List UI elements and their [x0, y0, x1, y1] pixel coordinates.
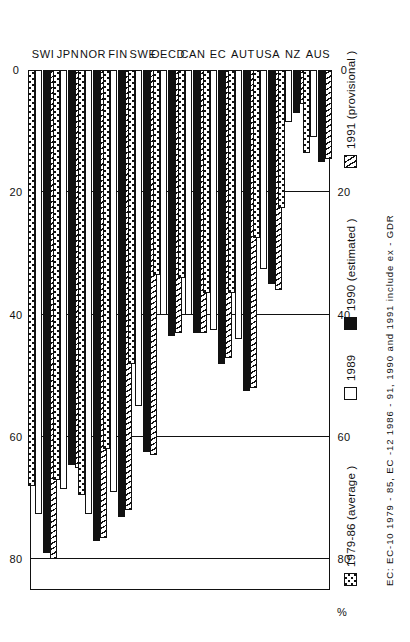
bar-swe-dotted — [128, 70, 135, 364]
chart-page: % 020406080 020406080 SWIJPNNORFINSWEOEC… — [0, 0, 410, 642]
category-label-nor: NOR — [79, 48, 105, 60]
legend-item-1[interactable]: 1989 — [344, 355, 357, 400]
legend-label-1: 1989 — [345, 355, 357, 381]
bar-aus-black — [318, 70, 325, 162]
legend-footnote: EC: EC-10 1979 - 85, EC -12 1986 - 91, 1… — [384, 214, 395, 586]
rotated-chart-canvas: % 020406080 020406080 SWIJPNNORFINSWEOEC… — [0, 0, 410, 642]
tick-label-top-20: 20 — [9, 186, 22, 198]
bar-swi-dotted — [28, 70, 35, 486]
bar-jpn-white — [60, 70, 67, 489]
bar-fin-black — [118, 70, 125, 517]
gridline-80 — [30, 558, 330, 559]
category-label-ec: EC — [209, 48, 225, 60]
tick-label-top-40: 40 — [9, 309, 22, 321]
bar-fin-dotted — [103, 70, 110, 449]
category-label-nz: NZ — [285, 48, 301, 60]
chart-legend: 1979-86 (average )19891990 (estimated )1… — [344, 66, 400, 586]
bar-can-dotted — [178, 70, 185, 278]
bar-aut-black — [243, 70, 250, 391]
legend-label-0: 1979-86 (average ) — [345, 466, 357, 567]
legend-label-2: 1990 (estimated ) — [345, 218, 357, 311]
bar-can-white — [185, 70, 192, 315]
category-label-fin: FIN — [108, 48, 128, 60]
legend-swatch-white — [344, 387, 357, 400]
category-label-aut: AUT — [231, 48, 255, 60]
bar-jpn-dotted — [53, 70, 60, 480]
bar-nor-white — [85, 70, 92, 514]
bar-aut-dotted — [228, 70, 235, 293]
bar-swi-white — [35, 70, 42, 514]
bar-swi-black — [43, 70, 50, 553]
bar-usa-black — [268, 70, 275, 284]
legend-item-0[interactable]: 1979-86 (average ) — [344, 466, 357, 586]
tick-label-top-0: 0 — [13, 64, 20, 76]
bar-swe-black — [143, 70, 150, 452]
bar-nz-dotted — [278, 70, 285, 208]
bar-nz-white — [285, 70, 292, 122]
bar-nor-dotted — [78, 70, 85, 495]
bar-usa-dotted — [253, 70, 260, 238]
bar-usa-white — [260, 70, 267, 269]
plot-area — [30, 70, 330, 590]
bar-nz-black — [293, 70, 300, 113]
bar-ec-black — [218, 70, 225, 364]
category-label-aus: AUS — [305, 48, 329, 60]
tick-label-top-60: 60 — [9, 431, 22, 443]
bar-can-black — [193, 70, 200, 333]
tick-label-top-80: 80 — [9, 553, 22, 565]
legend-swatch-black — [344, 317, 357, 330]
bar-aut-white — [235, 70, 242, 339]
category-label-swi: SWI — [31, 48, 54, 60]
bar-oecd-black — [168, 70, 175, 336]
category-label-oecd: OECD — [150, 48, 184, 60]
legend-swatch-hatch — [344, 155, 357, 168]
legend-label-3: 1991 (provisional ) — [345, 51, 357, 149]
legend-item-3[interactable]: 1991 (provisional ) — [344, 51, 357, 168]
bar-aus-dotted — [303, 70, 310, 153]
bar-oecd-white — [160, 70, 167, 315]
axis-unit-label: % — [337, 606, 347, 618]
legend-swatch-dotted — [344, 573, 357, 586]
category-label-usa: USA — [255, 48, 279, 60]
category-label-jpn: JPN — [56, 48, 79, 60]
bar-aus-hatch — [325, 70, 332, 159]
bar-fin-white — [110, 70, 117, 492]
bar-ec-white — [210, 70, 217, 330]
bar-aus-white — [310, 70, 317, 137]
legend-item-2[interactable]: 1990 (estimated ) — [344, 218, 357, 330]
bar-swe-white — [135, 70, 142, 406]
bar-ec-dotted — [203, 70, 210, 293]
category-label-can: CAN — [180, 48, 205, 60]
bar-jpn-black — [68, 70, 75, 465]
bar-oecd-dotted — [153, 70, 160, 275]
bar-nor-black — [93, 70, 100, 541]
